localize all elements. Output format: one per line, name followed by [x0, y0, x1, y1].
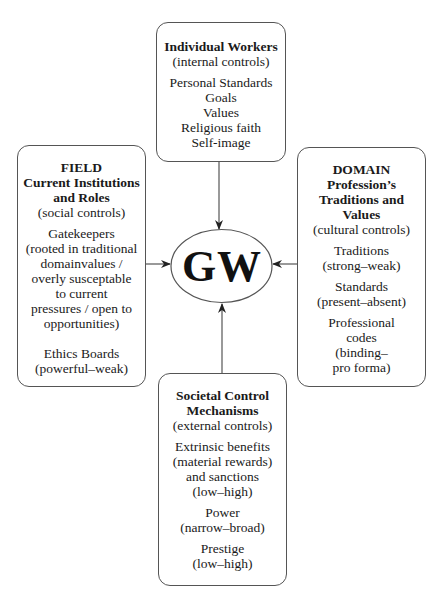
box-subtitle: (external controls)	[159, 418, 286, 433]
item-line: to current	[18, 286, 145, 301]
item-group: Personal Standards Goals Values Religiou…	[157, 75, 285, 150]
item-line: (binding–	[298, 345, 425, 360]
item-line: (powerful–weak)	[18, 361, 145, 376]
item-line: Personal Standards	[157, 75, 285, 90]
center-label: GW	[171, 229, 273, 303]
box-domain: DOMAIN Profession’s Traditions and Value…	[297, 147, 426, 387]
item-group-gatekeepers: Gatekeepers (rooted in traditional domai…	[18, 226, 145, 331]
item-group-traditions: Traditions (strong–weak)	[298, 243, 425, 273]
item-line: Traditions	[298, 243, 425, 258]
box-title: Societal Control Mechanisms	[159, 388, 286, 418]
title-line: Individual Workers	[157, 39, 285, 54]
item-line: codes	[298, 330, 425, 345]
item-line: and sanctions	[159, 469, 286, 484]
box-subtitle: (social controls)	[18, 205, 145, 220]
item-line: Power	[159, 505, 286, 520]
box-societal-control-mechanisms: Societal Control Mechanisms (external co…	[158, 373, 287, 586]
item-line: pro forma)	[298, 360, 425, 375]
item-line: Prestige	[159, 541, 286, 556]
item-line: (low–high)	[159, 556, 286, 571]
title-line: FIELD	[18, 160, 145, 175]
title-line: Values	[298, 207, 425, 222]
item-line: Extrinsic benefits	[159, 439, 286, 454]
box-field: FIELD Current Institutions and Roles (so…	[17, 145, 146, 387]
item-line: (low–high)	[159, 484, 286, 499]
item-group-prestige: Prestige (low–high)	[159, 541, 286, 571]
item-group-ethics-boards: Ethics Boards (powerful–weak)	[18, 346, 145, 376]
title-line: Mechanisms	[159, 403, 286, 418]
item-group-professional-codes: Professional codes (binding– pro forma)	[298, 315, 425, 375]
item-line: Self-image	[157, 135, 285, 150]
item-line: opportunities)	[18, 316, 145, 331]
title-line: Profession’s	[298, 177, 425, 192]
box-title: DOMAIN Profession’s Traditions and Value…	[298, 162, 425, 222]
item-line: Goals	[157, 90, 285, 105]
item-line: Standards	[298, 279, 425, 294]
item-line: Ethics Boards	[18, 346, 145, 361]
item-line: overly susceptable	[18, 271, 145, 286]
item-line: Professional	[298, 315, 425, 330]
item-group-extrinsic-benefits: Extrinsic benefits (material rewards) an…	[159, 439, 286, 499]
title-line: Traditions and	[298, 192, 425, 207]
item-line: Religious faith	[157, 120, 285, 135]
item-group-power: Power (narrow–broad)	[159, 505, 286, 535]
title-line: Societal Control	[159, 388, 286, 403]
box-title: FIELD Current Institutions and Roles	[18, 160, 145, 205]
box-subtitle: (cultural controls)	[298, 222, 425, 237]
box-title: Individual Workers	[157, 39, 285, 54]
box-individual-workers: Individual Workers (internal controls) P…	[156, 22, 286, 162]
item-line: (present–absent)	[298, 294, 425, 309]
title-line: Current Institutions	[18, 175, 145, 190]
title-line: and Roles	[18, 190, 145, 205]
item-group-standards: Standards (present–absent)	[298, 279, 425, 309]
item-line: pressures / open to	[18, 301, 145, 316]
item-line: (narrow–broad)	[159, 520, 286, 535]
item-line: Gatekeepers	[18, 226, 145, 241]
item-line: (material rewards)	[159, 454, 286, 469]
item-line: domainvalues /	[18, 256, 145, 271]
gw-diagram: GW Individual Workers (internal controls…	[0, 0, 441, 596]
box-subtitle: (internal controls)	[157, 54, 285, 69]
item-line: (rooted in traditional	[18, 241, 145, 256]
item-line: Values	[157, 105, 285, 120]
title-line: DOMAIN	[298, 162, 425, 177]
item-line: (strong–weak)	[298, 258, 425, 273]
